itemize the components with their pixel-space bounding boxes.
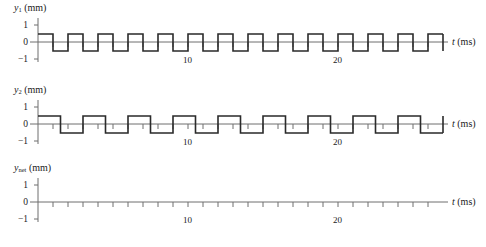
x-tick-group-y1 bbox=[53, 42, 428, 47]
plot-svg-y2 bbox=[0, 82, 486, 160]
plot-panel-y1: y1 (mm) 1 0 −1 10 20 t (ms) bbox=[0, 0, 486, 78]
plot-svg-y1 bbox=[0, 0, 486, 78]
plot-panel-y2: y2 (mm) 1 0 −1 10 20 t (ms) bbox=[0, 82, 486, 160]
plot-svg-ynet bbox=[0, 160, 486, 238]
x-tick-group-ynet bbox=[53, 202, 428, 207]
waveform-figure: y1 (mm) 1 0 −1 10 20 t (ms) bbox=[0, 0, 486, 247]
plot-panel-ynet: ynet (mm) 1 0 −1 10 20 t (ms) bbox=[0, 160, 486, 238]
